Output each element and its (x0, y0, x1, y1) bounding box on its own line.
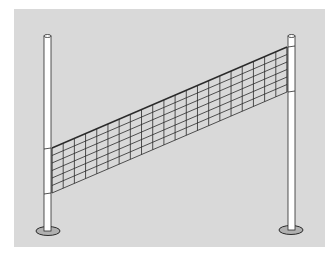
background-panel (14, 9, 325, 247)
volleyball-net-illustration (0, 0, 336, 261)
left-pole (44, 35, 51, 232)
right-pole (288, 35, 295, 231)
